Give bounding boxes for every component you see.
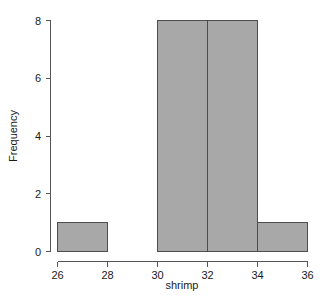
y-axis-tick-label: 6 [35,72,41,84]
y-axis-title: Frequency [7,110,19,162]
x-axis-tick-label: 36 [301,269,313,281]
y-axis-tick-label: 4 [35,130,41,142]
bars-group [58,21,308,252]
y-axis-tick-label: 0 [35,246,41,258]
x-axis-tick-label: 26 [51,269,63,281]
histogram-bar [58,223,108,252]
y-axis-tick-label: 2 [35,188,41,200]
x-axis-title: shrimp [165,279,198,291]
histogram-bar [158,21,208,252]
y-axis-tick-label: 8 [35,15,41,27]
histogram-figure: 02468 Frequency 262830323436 shrimp [0,0,325,306]
y-axis-ticks: 02468 [35,15,51,258]
histogram-bar [258,223,308,252]
x-axis-tick-label: 34 [251,269,263,281]
x-axis-tick-label: 30 [151,269,163,281]
x-axis-tick-label: 28 [101,269,113,281]
histogram-plot: 02468 Frequency 262830323436 shrimp [0,0,325,306]
x-axis-tick-label: 32 [201,269,213,281]
histogram-bar [208,21,258,252]
